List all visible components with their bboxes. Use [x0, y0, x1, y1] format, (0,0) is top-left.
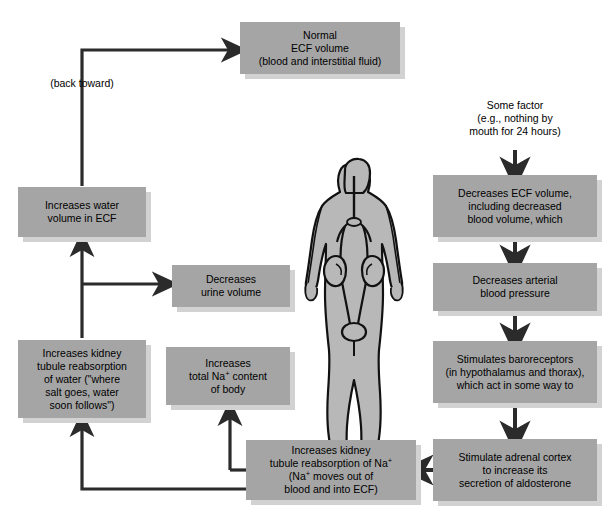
dec-ecf-line-3: blood volume, which [437, 213, 593, 226]
na-reabs-line-4: blood and into ECF) [250, 483, 412, 496]
water-reabs-line-1: Increases kidney [22, 347, 142, 360]
normal-ecf-line-3: (blood and interstitial fluid) [244, 55, 396, 68]
box-increases-total-na-content[interactable]: Increases total Na+ content of body [166, 347, 290, 405]
baroreceptors-line-2: (in hypothalamus and thorax), [437, 366, 593, 379]
baroreceptors-line-3: which act in some way to [437, 379, 593, 392]
urine-volume-line-2: urine volume [176, 286, 286, 299]
label-some-factor: Some factor (e.g., nothing by mouth for … [440, 99, 590, 138]
total-na-line-2: total Na+ content [170, 370, 286, 383]
adrenal-line-3: secretion of aldosterone [437, 477, 593, 490]
water-reabs-line-3: of water ("where [22, 373, 142, 386]
na-reabs-line-3: (Na+ moves out of [250, 470, 412, 483]
box-stimulate-adrenal-cortex[interactable]: Stimulate adrenal cortex to increase its… [433, 439, 597, 501]
box-increases-water-volume-ecf[interactable]: Increases water volume in ECF [18, 187, 146, 237]
adrenal-line-1: Stimulate adrenal cortex [437, 451, 593, 464]
box-stimulates-baroreceptors[interactable]: Stimulates baroreceptors (in hypothalamu… [433, 341, 597, 403]
na-reabs-line-2: tubule reabsorption of Na+ [250, 457, 412, 470]
dec-ecf-line-2: including decreased [437, 200, 593, 213]
box-decreases-ecf-volume[interactable]: Decreases ECF volume, including decrease… [433, 175, 597, 237]
water-reabs-line-2: tubule reabsorption [22, 360, 142, 373]
normal-ecf-line-1: Normal [244, 29, 396, 42]
urine-volume-line-1: Decreases [176, 273, 286, 286]
dec-ecf-line-1: Decreases ECF volume, [437, 187, 593, 200]
dec-bp-line-1: Decreases arterial [437, 274, 593, 287]
box-decreases-urine-volume[interactable]: Decreases urine volume [172, 265, 290, 307]
adrenal-line-2: to increase its [437, 464, 593, 477]
flowchart-diagram: Normal ECF volume (blood and interstitia… [0, 0, 616, 518]
water-reabs-line-5: soon follows") [22, 399, 142, 412]
box-increases-kidney-reabsorption-water[interactable]: Increases kidney tubule reabsorption of … [18, 340, 146, 418]
total-na-line-3: of body [170, 383, 286, 396]
water-reabs-line-4: salt goes, water [22, 386, 142, 399]
label-back-toward: (back toward) [32, 77, 132, 90]
box-normal-ecf-volume[interactable]: Normal ECF volume (blood and interstitia… [240, 22, 400, 74]
water-volume-line-1: Increases water [22, 199, 142, 212]
water-volume-line-2: volume in ECF [22, 212, 142, 225]
dec-bp-line-2: blood pressure [437, 287, 593, 300]
box-increases-kidney-reabsorption-na[interactable]: Increases kidney tubule reabsorption of … [246, 440, 416, 500]
baroreceptors-line-1: Stimulates baroreceptors [437, 353, 593, 366]
some-factor-line-1: Some factor [440, 99, 590, 112]
normal-ecf-line-2: ECF volume [244, 42, 396, 55]
box-decreases-arterial-blood-pressure[interactable]: Decreases arterial blood pressure [433, 263, 597, 311]
some-factor-line-3: mouth for 24 hours) [440, 125, 590, 138]
some-factor-line-2: (e.g., nothing by [440, 112, 590, 125]
